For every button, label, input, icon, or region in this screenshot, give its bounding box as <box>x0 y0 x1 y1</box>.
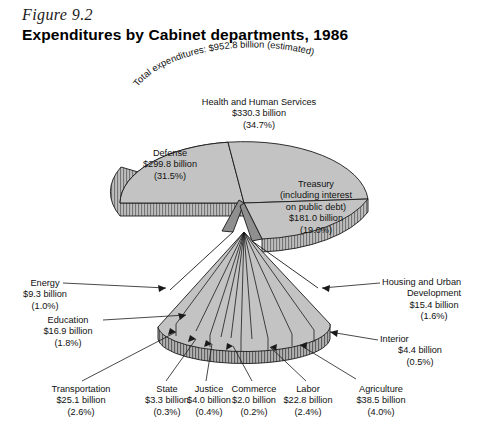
total-expenditures-note: Total expenditures: $952.8 billion (esti… <box>131 38 316 88</box>
pie-chart-graphic: Total expenditures: $952.8 billion (esti… <box>0 0 488 443</box>
callout-energy: Energy $9.3 billion (1.0%) <box>2 278 88 312</box>
callout-interior: Interior $4.4 billion (0.5%) <box>380 334 460 368</box>
callout-education: Education $16.9 billion (1.8%) <box>24 315 112 349</box>
slice-label-hhs: Health and Human Services $330.3 billion… <box>191 97 327 131</box>
callout-transportation: Transportation $25.1 billion (2.6%) <box>26 384 136 418</box>
slice-label-defense: Defense $299.8 billion (31.5%) <box>115 148 225 182</box>
callout-labor: Labor $22.8 billion (2.4%) <box>268 384 348 418</box>
slice-label-treasury: Treasury (including interest on public d… <box>258 179 374 236</box>
callout-housing-and-urban-development: Housing and Urban Development $15.4 bill… <box>382 277 486 323</box>
callout-agriculture: Agriculture $38.5 billion (4.0%) <box>338 384 424 418</box>
